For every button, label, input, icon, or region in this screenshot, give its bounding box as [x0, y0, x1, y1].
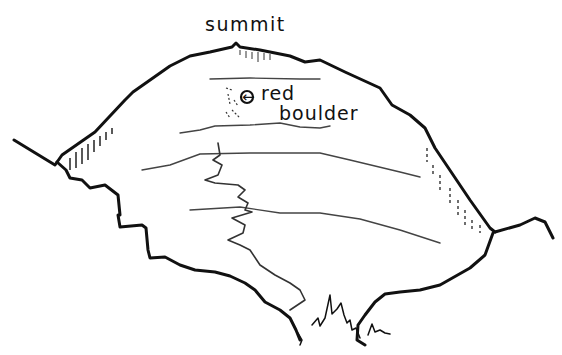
zigzag-path [205, 143, 305, 310]
contour-2 [180, 123, 330, 133]
right-slope-hatching [427, 148, 480, 233]
red-label: red [261, 84, 295, 103]
boulder-label: boulder [279, 104, 359, 123]
contour-4 [190, 207, 440, 243]
hill-illustration [0, 0, 562, 355]
hill-diagram: summit ← red boulder [0, 0, 562, 355]
right-base [495, 218, 553, 238]
arrow-left-icon: ← [242, 88, 255, 106]
ridge-outline [14, 43, 495, 232]
right-lower-slope [357, 233, 493, 345]
summit-label: summit [205, 15, 286, 34]
contour-3 [142, 153, 420, 177]
left-lower-outline [57, 162, 300, 340]
contour-1 [210, 78, 320, 79]
